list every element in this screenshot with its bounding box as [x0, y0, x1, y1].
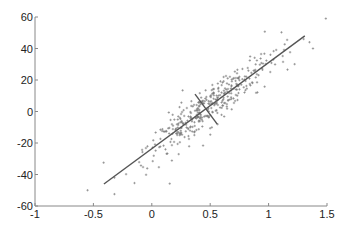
data-point	[259, 57, 261, 59]
data-point	[237, 92, 239, 94]
data-point	[232, 97, 234, 99]
data-point	[226, 107, 228, 109]
data-point	[236, 69, 238, 71]
data-point	[253, 57, 255, 59]
data-point	[211, 111, 213, 113]
data-point	[182, 109, 184, 111]
data-point	[286, 68, 288, 70]
data-point	[164, 148, 166, 150]
data-point	[170, 138, 172, 140]
data-point	[260, 53, 262, 55]
data-point	[153, 155, 155, 157]
data-point	[216, 112, 218, 114]
data-point	[234, 70, 236, 72]
data-point	[227, 99, 229, 101]
data-point	[194, 125, 196, 127]
data-point	[198, 105, 200, 107]
y-tick-label: -40	[17, 169, 33, 181]
data-point	[256, 59, 258, 61]
data-point	[173, 118, 175, 120]
data-point	[247, 69, 249, 71]
data-point	[193, 121, 195, 123]
data-point	[226, 77, 228, 79]
data-point	[173, 141, 175, 143]
data-point	[270, 62, 272, 64]
data-point	[241, 68, 243, 70]
data-point	[325, 17, 327, 19]
data-point	[250, 72, 252, 74]
data-point	[263, 53, 265, 55]
data-point	[269, 71, 271, 73]
data-point	[198, 128, 200, 130]
data-point	[201, 125, 203, 127]
data-point	[169, 141, 171, 143]
y-tick-label: -60	[17, 200, 33, 212]
data-point	[189, 129, 191, 131]
data-point	[217, 82, 219, 84]
data-point	[211, 84, 213, 86]
data-point	[230, 96, 232, 98]
data-point	[229, 76, 231, 78]
data-point	[204, 100, 206, 102]
x-tick-label: 0.5	[203, 208, 218, 220]
data-point	[224, 87, 226, 89]
data-point	[293, 63, 295, 65]
data-point	[280, 31, 282, 33]
data-point	[190, 105, 192, 107]
data-point	[193, 104, 195, 106]
data-point	[264, 30, 266, 32]
data-point	[177, 115, 179, 117]
data-point	[227, 95, 229, 97]
data-point	[234, 100, 236, 102]
data-point	[219, 80, 221, 82]
x-tick-label: 0	[149, 208, 155, 220]
data-point	[125, 173, 127, 175]
data-point	[183, 136, 185, 138]
data-point	[222, 76, 224, 78]
data-point	[186, 107, 188, 109]
data-point	[86, 189, 88, 191]
data-point	[181, 133, 183, 135]
data-point	[246, 87, 248, 89]
data-point	[312, 47, 314, 49]
data-point	[220, 114, 222, 116]
data-point	[255, 92, 257, 94]
data-point	[187, 115, 189, 117]
data-point	[154, 149, 156, 151]
data-point	[225, 75, 227, 77]
principal-axis-line	[104, 36, 305, 184]
data-point	[247, 67, 249, 69]
data-point	[249, 55, 251, 57]
data-point	[236, 72, 238, 74]
data-point	[219, 106, 221, 108]
data-point	[220, 84, 222, 86]
data-point	[223, 115, 225, 117]
data-point	[167, 127, 169, 129]
data-point	[154, 131, 156, 133]
data-point	[218, 90, 220, 92]
data-point	[282, 55, 284, 57]
data-point	[133, 182, 135, 184]
x-tick-label: 1.5	[319, 208, 334, 220]
data-point	[200, 96, 202, 98]
data-point	[195, 104, 197, 106]
data-point	[236, 99, 238, 101]
data-point	[265, 59, 267, 61]
data-point	[180, 101, 182, 103]
data-point	[243, 91, 245, 93]
data-point	[140, 164, 142, 166]
data-point	[220, 91, 222, 93]
data-point	[222, 104, 224, 106]
data-point	[234, 80, 236, 82]
data-point	[142, 166, 144, 168]
data-point	[199, 92, 201, 94]
data-point	[171, 159, 173, 161]
data-point	[241, 78, 243, 80]
data-point	[146, 167, 148, 169]
data-point	[244, 75, 246, 77]
data-point	[191, 130, 193, 132]
data-point	[188, 145, 190, 147]
data-point	[145, 174, 147, 176]
x-tick-label: 1	[266, 208, 272, 220]
data-point	[169, 182, 171, 184]
